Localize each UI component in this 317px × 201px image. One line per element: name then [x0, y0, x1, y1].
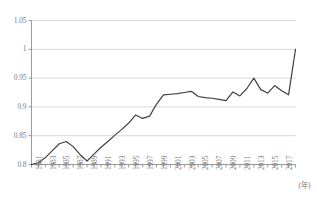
x-axis-tick-label: 2009: [229, 155, 238, 169]
y-axis-tick-label: 0.8: [17, 160, 26, 169]
x-axis-tick-label: 2013: [257, 155, 266, 169]
x-axis-tick-label: 1999: [160, 155, 169, 169]
x-axis-tick-label: 1993: [118, 155, 127, 169]
x-axis-tick-label: 2003: [188, 155, 197, 169]
x-axis-tick-label: 1987: [76, 155, 85, 169]
x-axis-tick-label: 1983: [49, 155, 58, 169]
x-axis-unit-label: (年): [299, 179, 311, 190]
y-axis-tick-label: 0.95: [14, 73, 27, 82]
y-axis-tick-label: 0.85: [14, 131, 27, 140]
x-axis-tick-label: 1995: [132, 155, 141, 169]
line-chart: 0.80.850.90.9511.05 19811983198519871989…: [0, 0, 317, 201]
x-axis-tick-label: 1981: [35, 155, 44, 169]
x-axis-tick-label: 1985: [62, 155, 71, 169]
chart-plot-area: [0, 0, 317, 201]
gridlines: [32, 21, 296, 165]
x-axis-tick-label: 2007: [215, 155, 224, 169]
x-axis-tick-label: 1991: [104, 155, 113, 169]
chart-axes: [32, 21, 296, 165]
x-axis-tick-label: 1997: [146, 155, 155, 169]
x-axis-tick-label: 2017: [285, 155, 294, 169]
x-axis-tick-label: 2011: [243, 156, 252, 170]
x-axis-tick-label: 2015: [271, 155, 280, 169]
y-axis-tick-label: 0.9: [17, 102, 26, 111]
x-axis-tick-label: 1989: [90, 155, 99, 169]
x-axis-tick-label: 2001: [174, 155, 183, 169]
y-axis-tick-label: 1: [23, 44, 27, 53]
x-axis-tick-label: 2005: [201, 155, 210, 169]
y-axis-tick-label: 1.05: [14, 16, 27, 25]
